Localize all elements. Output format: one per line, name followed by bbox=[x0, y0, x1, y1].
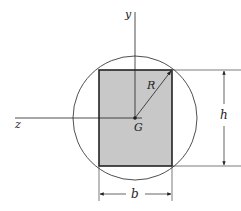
z-axis-label: z bbox=[14, 118, 21, 131]
width-label: b bbox=[131, 187, 139, 201]
centroid-label: G bbox=[134, 121, 143, 134]
radius-label: R bbox=[146, 79, 155, 92]
section-diagram: y z G R h b bbox=[0, 0, 241, 211]
height-label: h bbox=[220, 108, 228, 122]
y-axis-label: y bbox=[124, 8, 132, 21]
